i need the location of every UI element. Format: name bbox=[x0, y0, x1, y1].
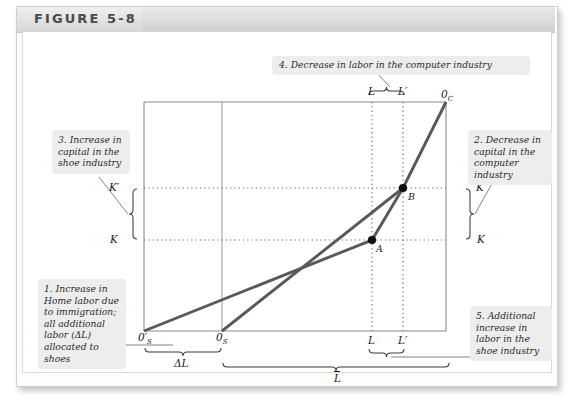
path-shoe-new bbox=[144, 188, 403, 331]
path-shoe-old bbox=[222, 188, 403, 331]
point-a-label: A bbox=[376, 243, 383, 254]
ytick-left-k-prime: K′ bbox=[109, 181, 119, 193]
point-a-marker bbox=[368, 236, 376, 244]
path-computer bbox=[403, 102, 446, 188]
origin-label-mid: 0S bbox=[216, 331, 227, 346]
ytick-right-k: K bbox=[477, 233, 485, 245]
annotation-note-5: 5. Additional increase in labor in the s… bbox=[470, 306, 552, 361]
point-b-label: B bbox=[408, 191, 415, 202]
origin-label-right: 0C bbox=[441, 88, 453, 103]
brace-capital-shoe bbox=[129, 189, 137, 239]
xtick-top-l-prime: L′ bbox=[398, 85, 407, 97]
gridlines bbox=[144, 102, 446, 331]
xtick-top-l: L bbox=[368, 85, 375, 97]
xtick-bottom-l-prime: L′ bbox=[398, 334, 407, 346]
brace-labor-shoe bbox=[369, 349, 404, 357]
brace-label-delta-l: ΔL bbox=[174, 357, 189, 369]
xtick-bottom-l: L bbox=[368, 334, 375, 346]
annotation-note-2: 2. Decrease in capital in the computer i… bbox=[468, 130, 552, 185]
annotation-note-3: 3. Increase in capital in the shoe indus… bbox=[52, 130, 130, 174]
figure-root: FIGURE 5-8 bbox=[0, 0, 580, 407]
brace-capital-computer bbox=[466, 189, 474, 239]
ytick-left-k: K bbox=[110, 233, 118, 245]
box-axes bbox=[144, 102, 446, 331]
l-bar-glyph: L bbox=[334, 372, 341, 384]
brace-label-l-bar: L bbox=[334, 372, 341, 384]
point-b-marker bbox=[399, 184, 407, 192]
brace-delta-l bbox=[145, 348, 221, 356]
origin-label-left: 0′S bbox=[138, 331, 152, 346]
annotation-note-1: 1. Increase in Home labor due to immigra… bbox=[38, 279, 126, 369]
annotation-note-4: 4. Decrease in labor in the computer ind… bbox=[272, 56, 530, 75]
expansion-paths bbox=[144, 102, 446, 331]
